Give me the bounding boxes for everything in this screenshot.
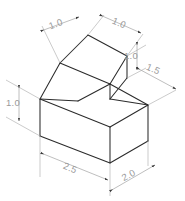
- dimension-top-left-width: 1.0: [41, 16, 79, 31]
- dim-label-bottom-right: 2.0: [120, 167, 138, 183]
- ext-line-top-left: [42, 26, 60, 63]
- isometric-drawing: 1.0 1.0 1.0 1.5: [0, 0, 185, 201]
- drawing-canvas: 1.0 1.0 1.0 1.5: [0, 0, 185, 201]
- dim-label-bottom-left: 2.5: [62, 160, 79, 175]
- ext-line-left-bottom: [6, 117, 40, 136]
- ext-line-upper-bottom: [127, 68, 146, 78]
- dimension-left-height: 1.0: [6, 80, 40, 136]
- ext-line-depth-start: [148, 90, 176, 105]
- dim-label-left-height: 1.0: [6, 97, 20, 108]
- dimension-top-right-depth: 1.0: [100, 15, 141, 33]
- ext-line-top-apex: [88, 15, 104, 35]
- dim-label-right-depth: 1.5: [145, 61, 162, 77]
- dim-label-top-right: 1.0: [111, 15, 128, 30]
- dim-label-top-left: 1.0: [47, 16, 64, 31]
- dimension-right-depth: 1.5: [137, 61, 176, 105]
- dim-label-upper-height: 1.0: [124, 50, 138, 61]
